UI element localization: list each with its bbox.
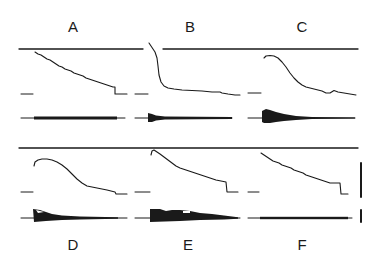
envelope-E-notch [183, 211, 190, 213]
envelope-B [148, 113, 232, 122]
panel-label-D: D [68, 236, 79, 253]
envelope-D [33, 209, 118, 222]
panel-label-F: F [297, 236, 306, 253]
trace-E [151, 150, 238, 192]
envelope-F [260, 217, 348, 219]
envelope-A [34, 117, 117, 120]
trace-F [261, 153, 348, 194]
trace-B [149, 43, 240, 95]
panel-label-E: E [183, 236, 193, 253]
panel-label-A: A [68, 18, 78, 35]
figure-canvas [0, 0, 377, 262]
trace-C [264, 56, 356, 96]
trace-A [35, 52, 127, 94]
trace-D [34, 159, 127, 194]
envelope-E [150, 209, 238, 222]
panel-label-C: C [297, 18, 308, 35]
envelope-C [262, 109, 355, 123]
panel-label-B: B [185, 18, 195, 35]
